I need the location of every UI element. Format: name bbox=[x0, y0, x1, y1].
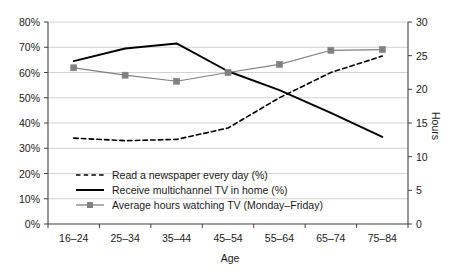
y-axis-tick-label: 60% bbox=[0, 68, 40, 79]
y-axis-tick-label: 20% bbox=[0, 169, 40, 180]
y-right-axis-title: Hours bbox=[430, 112, 442, 140]
y-axis-tick-label: 70% bbox=[0, 42, 40, 53]
y-axis-tick-label: 0% bbox=[0, 219, 40, 230]
chart-container: 0%10%20%30%40%50%60%70%80%05101520253016… bbox=[0, 0, 460, 276]
legend-label: Receive multichannel TV in home (%) bbox=[112, 184, 287, 196]
series-line-2 bbox=[74, 50, 383, 82]
x-axis-tick-label: 16–24 bbox=[48, 233, 99, 244]
x-axis-tick-label: 75–84 bbox=[357, 233, 408, 244]
x-axis-tick-label: 55–64 bbox=[254, 233, 305, 244]
y2-axis-tick-label: 0 bbox=[416, 219, 422, 230]
y-axis-tick-label: 40% bbox=[0, 118, 40, 129]
x-axis-tick-label: 25–34 bbox=[99, 233, 150, 244]
x-axis-title: Age bbox=[0, 252, 460, 264]
series-marker bbox=[71, 65, 77, 71]
y-axis-tick-label: 50% bbox=[0, 93, 40, 104]
y-axis-tick-label: 30% bbox=[0, 143, 40, 154]
y2-axis-tick-label: 5 bbox=[416, 185, 422, 196]
series-marker bbox=[225, 70, 231, 76]
series-marker bbox=[379, 47, 385, 53]
y2-axis-tick-label: 30 bbox=[416, 17, 428, 28]
legend-item: Receive multichannel TV in home (%) bbox=[74, 182, 324, 197]
y2-axis-tick-label: 20 bbox=[416, 84, 428, 95]
y2-axis-tick-label: 25 bbox=[416, 51, 428, 62]
y-axis-tick-label: 80% bbox=[0, 17, 40, 28]
legend-key-1-icon bbox=[74, 184, 106, 196]
series-marker bbox=[328, 47, 334, 53]
legend-label: Read a newspaper every day (%) bbox=[112, 169, 268, 181]
x-axis-tick-label: 35–44 bbox=[151, 233, 202, 244]
series-marker bbox=[174, 78, 180, 84]
series-marker bbox=[276, 61, 282, 67]
legend-key-2-icon bbox=[74, 199, 106, 211]
x-axis-tick-label: 45–54 bbox=[202, 233, 253, 244]
chart-legend: Read a newspaper every day (%)Receive mu… bbox=[74, 167, 324, 212]
series-marker bbox=[122, 72, 128, 78]
y2-axis-tick-label: 10 bbox=[416, 152, 428, 163]
series-line-0 bbox=[74, 56, 383, 141]
legend-item: Average hours watching TV (Monday–Friday… bbox=[74, 197, 324, 212]
x-axis-tick-label: 65–74 bbox=[305, 233, 356, 244]
legend-label: Average hours watching TV (Monday–Friday… bbox=[112, 199, 323, 211]
y-axis-tick-label: 10% bbox=[0, 194, 40, 205]
legend-key-0-icon bbox=[74, 169, 106, 181]
y2-axis-tick-label: 15 bbox=[416, 118, 428, 129]
legend-item: Read a newspaper every day (%) bbox=[74, 167, 324, 182]
